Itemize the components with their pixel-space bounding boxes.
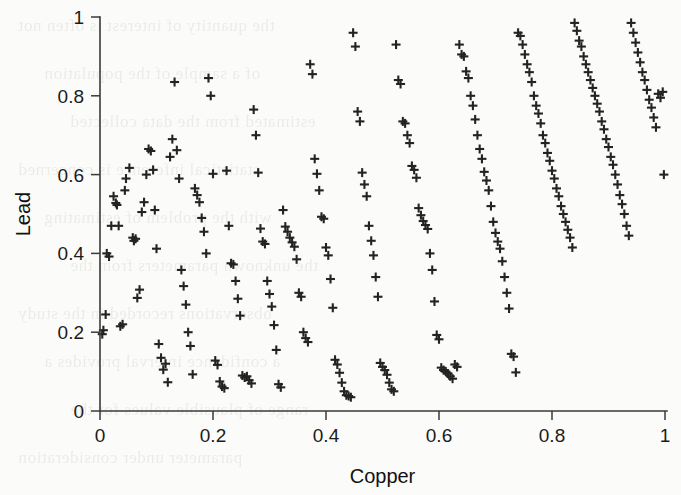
data-point xyxy=(545,156,554,165)
data-point xyxy=(166,152,175,161)
x-tick-label: 0.2 xyxy=(200,425,226,446)
data-point xyxy=(197,213,206,222)
data-point xyxy=(609,160,618,169)
data-point xyxy=(231,276,240,285)
data-point xyxy=(186,341,195,350)
data-point xyxy=(358,168,367,177)
data-point xyxy=(615,191,624,200)
data-point xyxy=(310,154,319,163)
y-tick-label: 0.4 xyxy=(58,243,85,264)
data-point xyxy=(611,170,620,179)
data-point xyxy=(204,74,213,83)
data-point xyxy=(249,105,258,114)
y-tick-label: 0.2 xyxy=(58,322,84,343)
data-point xyxy=(651,123,660,132)
scatter-markers-layer xyxy=(98,18,669,401)
x-tick-label: 0.4 xyxy=(313,425,340,446)
data-point xyxy=(552,184,561,193)
data-point xyxy=(538,131,547,140)
data-point xyxy=(525,68,534,77)
data-point xyxy=(543,148,552,157)
data-point xyxy=(640,76,649,85)
data-point xyxy=(579,52,588,61)
data-point xyxy=(584,68,593,77)
data-point xyxy=(633,48,642,57)
data-point xyxy=(606,152,615,161)
data-point xyxy=(152,244,161,253)
data-point xyxy=(181,300,190,309)
data-point xyxy=(322,243,331,252)
data-point xyxy=(355,117,364,126)
data-point xyxy=(306,60,315,69)
data-point xyxy=(233,294,242,303)
data-point xyxy=(236,311,245,320)
data-point xyxy=(172,146,181,155)
data-point xyxy=(120,186,129,195)
data-point xyxy=(498,257,507,266)
data-point xyxy=(364,221,373,230)
data-point xyxy=(595,107,604,116)
data-point xyxy=(403,131,412,140)
data-point xyxy=(502,288,511,297)
data-point xyxy=(149,165,158,174)
data-point xyxy=(121,174,130,183)
x-axis-title: Copper xyxy=(350,465,416,487)
data-point xyxy=(455,40,464,49)
data-point xyxy=(412,173,421,182)
data-point xyxy=(638,68,647,77)
data-point xyxy=(604,143,613,152)
data-point xyxy=(563,225,572,234)
data-point xyxy=(593,99,602,108)
data-point xyxy=(315,186,324,195)
data-point xyxy=(360,180,369,189)
data-point xyxy=(256,224,265,233)
data-point xyxy=(125,163,134,172)
data-point xyxy=(170,78,179,87)
data-point xyxy=(373,292,382,301)
data-point xyxy=(486,202,495,211)
data-point xyxy=(620,210,629,219)
data-point xyxy=(518,40,527,49)
data-point xyxy=(489,217,498,226)
x-tick-label: 0.8 xyxy=(539,425,565,446)
data-point xyxy=(324,251,333,260)
data-point xyxy=(624,231,633,240)
data-point xyxy=(645,95,654,104)
data-point xyxy=(618,200,627,209)
data-point xyxy=(202,249,211,258)
data-point xyxy=(114,221,123,230)
data-point xyxy=(312,169,321,178)
data-point xyxy=(349,28,358,37)
data-point xyxy=(534,109,543,118)
data-point xyxy=(572,26,581,35)
data-point xyxy=(631,38,640,47)
data-point xyxy=(392,40,401,49)
data-point xyxy=(568,243,577,252)
data-point xyxy=(351,42,360,51)
data-point xyxy=(613,180,622,189)
data-point xyxy=(428,265,437,274)
data-point xyxy=(550,174,559,183)
data-point xyxy=(142,170,151,179)
x-tick-label: 1 xyxy=(660,425,671,446)
data-point xyxy=(179,282,188,291)
data-point xyxy=(536,119,545,128)
data-point xyxy=(135,285,144,294)
data-point xyxy=(500,273,509,282)
data-point xyxy=(188,370,197,379)
data-point xyxy=(133,293,142,302)
scatter-plot-figure: the quantity of interest is often notof … xyxy=(0,0,681,495)
data-point xyxy=(548,166,557,175)
data-point xyxy=(659,170,668,179)
data-point xyxy=(292,255,301,264)
data-point xyxy=(367,236,376,245)
x-tick-label: 0.6 xyxy=(426,425,452,446)
y-tick-label: 1 xyxy=(73,7,84,28)
data-point xyxy=(308,70,317,79)
y-tick-label: 0.8 xyxy=(58,86,84,107)
data-point xyxy=(335,368,344,377)
data-point xyxy=(326,275,335,284)
data-point xyxy=(279,206,288,215)
data-point xyxy=(581,60,590,69)
data-point xyxy=(602,135,611,144)
